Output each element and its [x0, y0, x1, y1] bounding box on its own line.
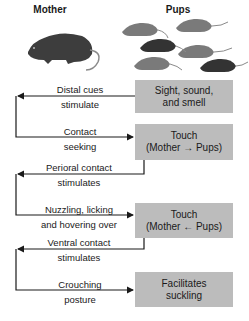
box-line: Touch — [171, 209, 198, 221]
label-ventral-contact: Ventral contact stimulates — [24, 237, 134, 264]
sensory-cues-box: Sight, sound, and smell — [135, 80, 233, 113]
box-line: suckling — [166, 290, 202, 302]
facilitates-suckling-box: Facilitates suckling — [135, 272, 233, 307]
label-nuzzling-licking: Nuzzling, licking and hovering over — [24, 204, 134, 231]
label-perioral-contact: Perioral contact stimulates — [24, 162, 134, 189]
box-line: Sight, sound, — [155, 85, 213, 97]
box-line: and smell — [163, 97, 206, 109]
box-line: Facilitates — [161, 278, 206, 290]
touch-pups-to-mother-box: Touch (Mother ← Pups) — [135, 203, 233, 238]
box-line: (Mother ← Pups) — [146, 221, 222, 233]
label-contact-seeking: Contact seeking — [30, 126, 130, 153]
label-crouching-posture: Crouching posture — [30, 279, 130, 306]
label-distal-cues: Distal cues stimulate — [30, 84, 130, 111]
box-line: Touch — [171, 130, 198, 142]
touch-mother-to-pups-box: Touch (Mother → Pups) — [135, 124, 233, 160]
box-line: (Mother → Pups) — [146, 142, 222, 154]
